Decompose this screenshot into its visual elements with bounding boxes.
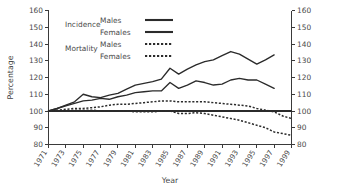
svg-text:140: 140 xyxy=(297,40,311,49)
series-line-mortality-females xyxy=(49,110,292,135)
legend-label-incidence-males: Males xyxy=(100,16,122,25)
svg-text:90: 90 xyxy=(297,123,307,132)
svg-text:80: 80 xyxy=(297,140,307,149)
data-series xyxy=(49,52,292,136)
svg-text:90: 90 xyxy=(34,123,44,132)
svg-text:1977: 1977 xyxy=(84,148,101,168)
svg-text:1995: 1995 xyxy=(240,148,257,168)
svg-text:1983: 1983 xyxy=(136,148,153,168)
svg-text:120: 120 xyxy=(29,73,43,82)
series-line-incidence-males xyxy=(49,52,275,111)
y-axis-left-ticks: 8090100110120130140150160 xyxy=(29,6,49,149)
svg-text:110: 110 xyxy=(297,90,311,99)
x-axis-ticks: 1971197319751977197919811983198519871989… xyxy=(32,145,293,169)
svg-text:110: 110 xyxy=(29,90,43,99)
legend-label-mortality-females: Females xyxy=(100,52,131,61)
svg-text:1981: 1981 xyxy=(119,148,136,168)
svg-text:150: 150 xyxy=(29,23,43,32)
chart-figure: 8090100110120130140150160 80901001101201… xyxy=(0,0,341,189)
svg-text:100: 100 xyxy=(29,107,43,116)
svg-text:1997: 1997 xyxy=(258,148,275,168)
svg-text:130: 130 xyxy=(297,56,311,65)
svg-text:100: 100 xyxy=(297,107,311,116)
svg-text:120: 120 xyxy=(297,73,311,82)
svg-text:1971: 1971 xyxy=(32,148,49,168)
y-axis-title: Percentage xyxy=(6,55,15,99)
svg-text:160: 160 xyxy=(29,6,43,15)
svg-text:150: 150 xyxy=(297,23,311,32)
svg-text:80: 80 xyxy=(34,140,44,149)
axes xyxy=(49,11,292,145)
chart-legend: IncidenceMalesFemalesMortalityMalesFemal… xyxy=(65,16,173,61)
x-axis-title: Year xyxy=(161,176,179,185)
legend-group-mortality: Mortality xyxy=(65,44,98,53)
series-line-mortality-males xyxy=(49,101,292,119)
svg-text:1979: 1979 xyxy=(101,148,119,169)
svg-text:1985: 1985 xyxy=(153,148,170,168)
legend-label-mortality-males: Males xyxy=(100,40,122,49)
svg-text:1973: 1973 xyxy=(49,148,66,168)
svg-text:1987: 1987 xyxy=(171,148,188,168)
legend-group-incidence: Incidence xyxy=(65,20,101,29)
legend-label-incidence-females: Females xyxy=(100,28,131,37)
svg-text:160: 160 xyxy=(297,6,311,15)
svg-text:140: 140 xyxy=(29,40,43,49)
svg-text:1989: 1989 xyxy=(188,148,206,169)
svg-text:1991: 1991 xyxy=(205,148,222,168)
svg-text:130: 130 xyxy=(29,56,43,65)
line-chart: 8090100110120130140150160 80901001101201… xyxy=(0,0,341,189)
svg-text:1999: 1999 xyxy=(275,148,293,169)
y-axis-right-ticks: 8090100110120130140150160 xyxy=(292,6,312,149)
svg-text:1993: 1993 xyxy=(223,148,240,168)
svg-text:1975: 1975 xyxy=(67,148,84,168)
